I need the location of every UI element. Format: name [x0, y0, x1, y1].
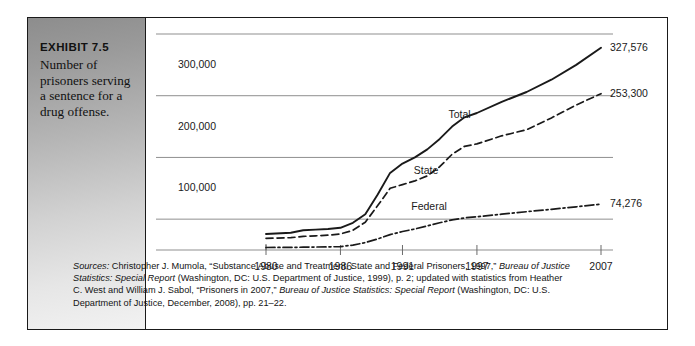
- source-lead: Sources:: [73, 261, 109, 271]
- x-axis-tick-label: 2007: [577, 260, 625, 272]
- series-label-total: Total: [449, 108, 471, 120]
- y-axis-tick-label: 300,000: [154, 58, 216, 70]
- exhibit-figure: EXHIBIT 7.5 Number of prisoners serving …: [27, 17, 668, 330]
- source-text-1: Christopher J. Mumola, “Substance Abuse …: [109, 261, 499, 271]
- series-end-value-federal: 74,276: [610, 197, 642, 209]
- series-label-state: State: [414, 164, 439, 176]
- series-end-value-state: 253,300: [610, 87, 648, 99]
- y-axis-tick-label: 100,000: [154, 181, 216, 193]
- series-end-value-total: 327,576: [610, 41, 648, 53]
- exhibit-caption-text: Number of prisoners serving a sentence f…: [40, 57, 139, 119]
- source-note: Sources: Christopher J. Mumola, “Substan…: [73, 260, 573, 309]
- source-italic-2: Bureau of Justice Statistics: Special Re…: [279, 285, 455, 295]
- y-axis-tick-label: 200,000: [154, 120, 216, 132]
- exhibit-label: EXHIBIT 7.5: [40, 41, 139, 53]
- series-label-federal: Federal: [411, 200, 447, 212]
